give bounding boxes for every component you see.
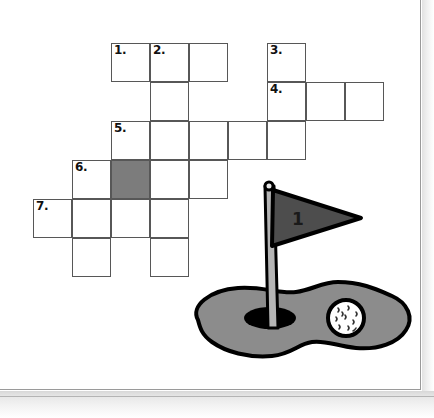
crossword-clue-number: 7. (36, 200, 48, 213)
crossword-cell[interactable] (150, 82, 189, 121)
crossword-cell[interactable]: 6. (72, 160, 111, 199)
putting-green-shape (196, 282, 409, 356)
crossword-cell[interactable] (111, 199, 150, 238)
crossword-cell[interactable] (228, 121, 267, 160)
crossword-cell[interactable]: 4. (267, 82, 306, 121)
crossword-cell[interactable] (189, 121, 228, 160)
crossword-cell[interactable]: 2. (150, 43, 189, 82)
crossword-cell[interactable]: 7. (33, 199, 72, 238)
crossword-cell[interactable]: 3. (267, 43, 306, 82)
crossword-clue-number: 3. (270, 44, 282, 57)
crossword-cell[interactable] (150, 238, 189, 277)
crossword-cell[interactable] (189, 43, 228, 82)
crossword-cell[interactable] (306, 82, 345, 121)
page-edge-line (0, 396, 434, 397)
flag-pennant-shape (272, 190, 361, 246)
crossword-cell-blocked (111, 160, 150, 199)
crossword-cell[interactable] (150, 121, 189, 160)
crossword-clue-number: 2. (153, 44, 165, 57)
flag-number-label: 1 (292, 209, 304, 229)
crossword-cell[interactable] (267, 121, 306, 160)
golf-green-illustration: 1 (186, 178, 416, 383)
crossword-cell[interactable] (150, 199, 189, 238)
page-right-shadow (422, 0, 434, 392)
crossword-clue-number: 6. (75, 161, 87, 174)
crossword-cell[interactable] (150, 160, 189, 199)
crossword-cell[interactable] (345, 82, 384, 121)
crossword-cell[interactable]: 1. (111, 43, 150, 82)
worksheet-page: 1.2.3.4.5.6.7. 1 (0, 0, 434, 418)
crossword-clue-number: 1. (114, 44, 126, 57)
crossword-cell[interactable] (72, 238, 111, 277)
crossword-cell[interactable]: 5. (111, 121, 150, 160)
crossword-cell[interactable] (72, 199, 111, 238)
crossword-clue-number: 4. (270, 83, 282, 96)
crossword-clue-number: 5. (114, 122, 126, 135)
